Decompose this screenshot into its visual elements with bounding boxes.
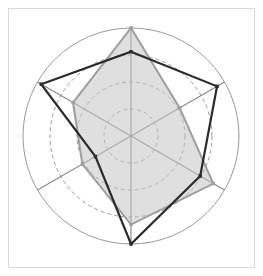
series-0-marker-0 <box>129 26 132 29</box>
series-0-marker-4 <box>81 162 84 165</box>
series-1-marker-2 <box>199 174 202 177</box>
series-0-marker-1 <box>178 106 181 109</box>
series-1-marker-1 <box>215 85 218 88</box>
series-0-marker-3 <box>129 223 132 226</box>
radar-chart <box>0 0 263 276</box>
series-1-marker-4 <box>94 155 97 158</box>
radar-series-group <box>41 28 217 244</box>
series-0-marker-2 <box>212 182 215 185</box>
series-1-marker-0 <box>129 50 132 53</box>
series-1-marker-3 <box>129 242 132 245</box>
series-0-marker-5 <box>71 101 74 104</box>
series-1-marker-5 <box>40 82 43 85</box>
figure-root <box>0 0 263 276</box>
